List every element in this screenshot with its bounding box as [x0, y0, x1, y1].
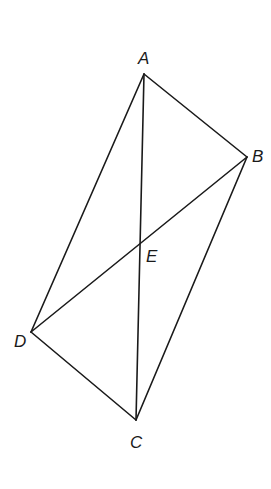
- diagonals: [31, 74, 247, 420]
- intersection-label-e: E: [146, 247, 158, 266]
- quadrilateral-edges: [31, 74, 247, 420]
- diagram-canvas: A B C D E: [0, 0, 271, 489]
- vertex-label-a: A: [137, 49, 149, 68]
- edge-ab: [144, 74, 247, 157]
- edge-cd: [31, 332, 136, 420]
- vertex-label-c: C: [130, 433, 143, 452]
- vertex-label-b: B: [252, 147, 263, 166]
- edge-da: [31, 74, 144, 332]
- vertex-labels: A B C D E: [14, 49, 263, 452]
- diagonal-ac: [136, 74, 144, 420]
- vertex-label-d: D: [14, 332, 26, 351]
- edge-bc: [136, 157, 247, 420]
